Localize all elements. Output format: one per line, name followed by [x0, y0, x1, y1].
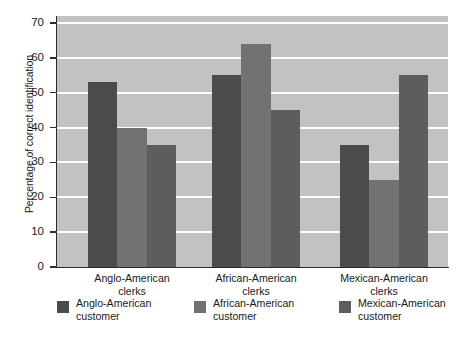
bar-chart: Percentage of correct identification 010…	[0, 0, 470, 345]
y-tick-label-30: 30	[2, 155, 44, 167]
y-tick-mark-60	[50, 57, 56, 58]
bar-group-3-series-3	[399, 75, 428, 267]
y-tick-label-40: 40	[2, 121, 44, 133]
legend-swatch-1	[57, 301, 69, 313]
legend-label-line2: customer	[358, 310, 470, 323]
y-tick-mark-10	[50, 231, 56, 232]
y-tick-mark-20	[50, 197, 56, 198]
bar-group-1-series-1	[88, 82, 117, 267]
bar-group-3-series-1	[340, 145, 369, 267]
y-tick-label-60: 60	[2, 51, 44, 63]
legend-swatch-2	[194, 301, 206, 313]
bar-group-3-series-2	[369, 180, 398, 267]
legend-label-line2: customer	[213, 310, 333, 323]
plot-area	[57, 16, 448, 267]
legend-label-line2: customer	[76, 310, 196, 323]
y-tick-label-50: 50	[2, 86, 44, 98]
legend-label-1: Anglo-Americancustomer	[76, 297, 196, 323]
legend-label-line1: Anglo-American	[76, 297, 196, 310]
y-tick-mark-30	[50, 162, 56, 163]
x-axis-label-line1: Mexican-American	[309, 272, 459, 285]
bar-group-2-series-2	[241, 44, 270, 267]
bar-group-2-series-3	[271, 110, 300, 267]
y-tick-label-70: 70	[2, 16, 44, 28]
y-axis-line	[56, 16, 57, 268]
y-tick-mark-40	[50, 127, 56, 128]
legend-label-line1: African-American	[213, 297, 333, 310]
legend-label-2: African-Americancustomer	[213, 297, 333, 323]
legend-label-3: Mexican-Americancustomer	[358, 297, 470, 323]
legend-swatch-3	[339, 301, 351, 313]
x-axis-line	[56, 267, 449, 268]
x-axis-label-3: Mexican-Americanclerks	[309, 272, 459, 297]
gridline-70	[57, 22, 448, 24]
bar-group-1-series-2	[117, 128, 146, 267]
legend: Anglo-AmericancustomerAfrican-Americancu…	[57, 299, 457, 339]
y-tick-label-10: 10	[2, 225, 44, 237]
y-tick-mark-50	[50, 92, 56, 93]
y-tick-mark-70	[50, 22, 56, 23]
legend-label-line1: Mexican-American	[358, 297, 470, 310]
y-axis-title: Percentage of correct identification	[23, 9, 35, 259]
bar-group-1-series-3	[147, 145, 176, 267]
bar-group-2-series-1	[212, 75, 241, 267]
y-tick-mark-0	[50, 266, 56, 267]
x-axis-label-line2: clerks	[309, 285, 459, 298]
y-tick-label-20: 20	[2, 190, 44, 202]
y-tick-label-0: 0	[2, 260, 44, 272]
